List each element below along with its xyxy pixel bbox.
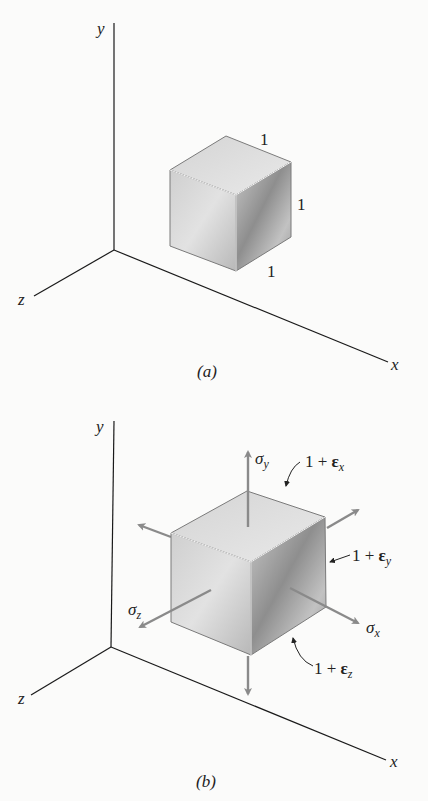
edge-label-top: 1 <box>260 130 269 149</box>
z-axis-b <box>31 647 111 695</box>
z-axis-label-b: z <box>17 689 25 708</box>
strain-y-label: 1 + εy <box>352 546 392 568</box>
x-axis-a <box>114 250 388 362</box>
sigma-y-label: σy <box>255 449 269 471</box>
edge-label-bottom: 1 <box>267 262 276 281</box>
edge-label-right: 1 <box>297 195 306 214</box>
z-axis-a <box>34 250 114 296</box>
z-axis-label-a: z <box>17 290 25 309</box>
unit-cube <box>170 136 291 271</box>
caption-a: (a) <box>197 362 217 381</box>
figure-a: y z x 1 1 1 (a) <box>17 19 399 381</box>
x-axis-label-a: x <box>390 355 399 374</box>
figure-b: y z x σy σz σx <box>17 417 398 791</box>
y-axis-label-b: y <box>94 417 104 436</box>
strain-z-label: 1 + εz <box>314 659 353 681</box>
y-axis-b <box>111 421 114 647</box>
y-axis-label-a: y <box>95 19 105 38</box>
caption-b: (b) <box>196 772 216 791</box>
arrow-neg-z <box>139 525 171 537</box>
sigma-z-label: σz <box>128 600 141 622</box>
x-axis-label-b: x <box>389 752 398 771</box>
arrow-pos-x-back <box>327 510 358 528</box>
strain-x-label: 1 + εx <box>305 452 345 474</box>
stress-strain-diagram: y z x 1 1 1 (a) y z x <box>0 0 428 801</box>
sigma-x-label: σx <box>366 618 380 640</box>
